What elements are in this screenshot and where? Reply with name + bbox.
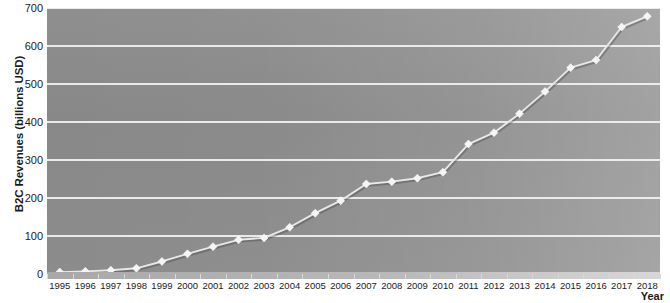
x-tick-mark xyxy=(405,274,406,279)
y-tick-label-0: 0 xyxy=(2,268,43,280)
x-tick-mark xyxy=(226,274,227,279)
series-line xyxy=(60,16,647,272)
y-tick-label-200: 200 xyxy=(2,192,43,204)
x-tick-mark xyxy=(430,274,431,279)
b2c-revenues-line-chart: B2C Revenues (billions USD) 010020030040… xyxy=(0,0,670,303)
y-tick-label-500: 500 xyxy=(2,78,43,90)
x-tick-mark xyxy=(507,274,508,279)
plot-area xyxy=(47,8,660,274)
x-tick-mark xyxy=(532,274,533,279)
x-tick-mark xyxy=(175,274,176,279)
x-axis-title: Year xyxy=(641,290,664,302)
x-tick-mark xyxy=(634,274,635,279)
y-tick-label-400: 400 xyxy=(2,116,43,128)
y-tick-label-100: 100 xyxy=(2,230,43,242)
x-tick-mark xyxy=(481,274,482,279)
y-tick-label-300: 300 xyxy=(2,154,43,166)
x-tick-mark xyxy=(98,274,99,279)
x-tick-mark xyxy=(583,274,584,279)
x-tick-mark xyxy=(354,274,355,279)
x-tick-mark xyxy=(609,274,610,279)
x-tick-mark xyxy=(328,274,329,279)
series-line-shadow xyxy=(61,18,648,274)
x-tick-mark xyxy=(149,274,150,279)
x-tick-mark xyxy=(73,274,74,279)
x-tick-mark xyxy=(277,274,278,279)
x-axis-tick-marks xyxy=(47,274,660,279)
y-axis-tick-labels: 0100200300400500600700 xyxy=(0,0,43,303)
x-tick-mark xyxy=(47,274,48,279)
x-tick-mark xyxy=(302,274,303,279)
x-tick-mark xyxy=(558,274,559,279)
x-tick-mark xyxy=(251,274,252,279)
x-tick-mark xyxy=(200,274,201,279)
x-tick-mark xyxy=(124,274,125,279)
series-b2c-revenues xyxy=(47,8,660,274)
x-axis-tick-labels: 1995199619971998199920002001200220032004… xyxy=(0,280,670,294)
y-tick-label-600: 600 xyxy=(2,40,43,52)
x-tick-mark xyxy=(660,274,661,279)
x-tick-mark xyxy=(379,274,380,279)
y-tick-label-700: 700 xyxy=(2,2,43,14)
x-tick-mark xyxy=(456,274,457,279)
